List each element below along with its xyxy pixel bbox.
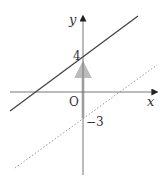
origin-label: O [69, 95, 79, 109]
x-axis-label: x [147, 94, 155, 109]
intercept-label-4: 4 [73, 49, 81, 63]
y-axis-label: y [68, 12, 77, 27]
intercept-label-neg3: −3 [86, 115, 104, 129]
diagram-canvas: y x O 4 −3 [0, 0, 168, 179]
coordinate-diagram: y x O 4 −3 [0, 0, 168, 179]
